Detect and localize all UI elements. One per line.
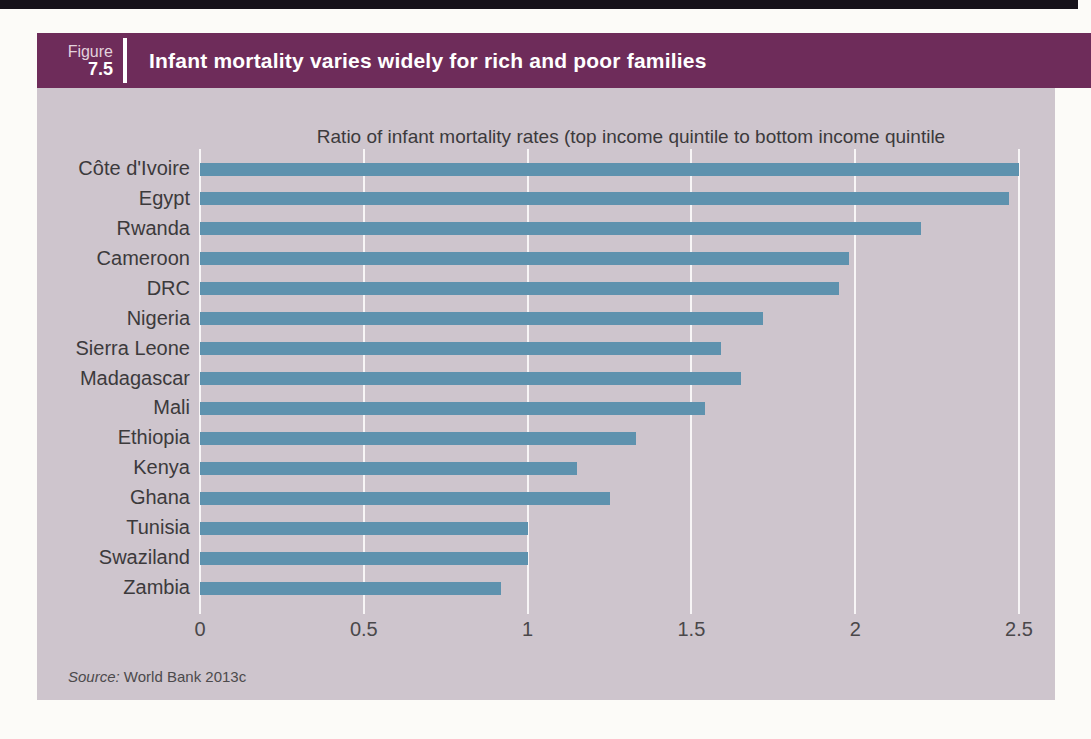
figure-label: Figure — [37, 43, 113, 61]
source-prefix: Source: — [68, 668, 120, 685]
xtick-label: 0 — [194, 618, 205, 641]
figure-header-bar: Figure 7.5 Infant mortality varies widel… — [37, 33, 1091, 88]
gridline-x-2 — [854, 149, 856, 614]
bar — [200, 552, 528, 565]
bar — [200, 163, 1019, 176]
category-label: Ethiopia — [30, 426, 190, 449]
source-text: World Bank 2013c — [120, 668, 246, 685]
category-label: Cameroon — [30, 247, 190, 270]
bar — [200, 252, 849, 265]
bar — [200, 582, 501, 595]
category-label: DRC — [30, 277, 190, 300]
category-label: Kenya — [30, 456, 190, 479]
xtick-label: 0.5 — [350, 618, 378, 641]
bar — [200, 402, 705, 415]
xtick-label: 2 — [850, 618, 861, 641]
bar — [200, 522, 528, 535]
category-label: Madagascar — [30, 367, 190, 390]
bar — [200, 342, 721, 355]
scanned-book-page: Figure 7.5 Infant mortality varies widel… — [0, 0, 1091, 739]
xtick-label: 1.5 — [677, 618, 705, 641]
source-line: Source: World Bank 2013c — [68, 668, 246, 685]
xtick-label: 1 — [522, 618, 533, 641]
category-label: Côte d'Ivoire — [30, 157, 190, 180]
category-label: Zambia — [30, 576, 190, 599]
figure-label-block: Figure 7.5 — [37, 41, 113, 80]
category-label: Mali — [30, 396, 190, 419]
header-divider — [123, 38, 127, 83]
category-label: Egypt — [30, 187, 190, 210]
bar — [200, 312, 763, 325]
category-label: Tunisia — [30, 516, 190, 539]
gridline-x-2.5 — [1018, 149, 1020, 614]
category-label: Swaziland — [30, 546, 190, 569]
bar — [200, 192, 1009, 205]
category-label: Sierra Leone — [30, 337, 190, 360]
figure-title: Infant mortality varies widely for rich … — [149, 49, 707, 73]
category-label: Rwanda — [30, 217, 190, 240]
bar — [200, 282, 839, 295]
chart-subtitle: Ratio of infant mortality rates (top inc… — [200, 126, 1062, 148]
bar — [200, 222, 921, 235]
bar — [200, 492, 610, 505]
figure-number: 7.5 — [37, 60, 113, 80]
category-label: Nigeria — [30, 307, 190, 330]
xtick-label: 2.5 — [1005, 618, 1033, 641]
bar — [200, 432, 636, 445]
category-label: Ghana — [30, 486, 190, 509]
bar — [200, 372, 741, 385]
scan-edge-strip — [0, 0, 1078, 9]
bar — [200, 462, 577, 475]
